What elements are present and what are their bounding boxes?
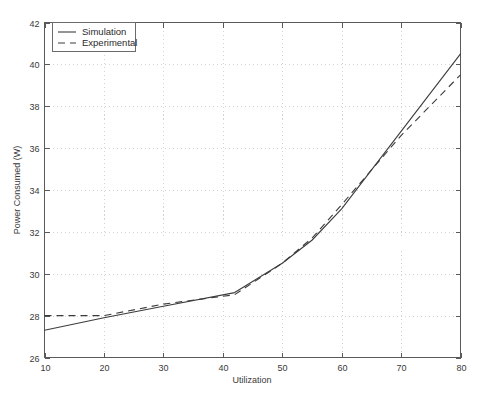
- legend: Simulation Experimental: [53, 23, 138, 52]
- figure-canvas: 262830323436384042 1020304050607080 Util…: [0, 0, 487, 400]
- y-tick-label: 26: [29, 354, 39, 364]
- series-experimental: [45, 75, 461, 316]
- plot-border: [45, 23, 461, 358]
- x-tick-label: 60: [337, 363, 347, 373]
- x-tick-label: 30: [158, 363, 168, 373]
- x-tick-label: 50: [277, 363, 287, 373]
- x-tick-label: 70: [396, 363, 406, 373]
- legend-label-experimental: Experimental: [82, 37, 137, 48]
- y-tick-label: 30: [29, 270, 39, 280]
- x-tick-labels: 1020304050607080: [40, 363, 466, 373]
- x-tick-label: 10: [40, 363, 50, 373]
- y-tick-labels: 262830323436384042: [29, 19, 39, 364]
- series-simulation: [45, 54, 461, 330]
- y-tick-label: 32: [29, 228, 39, 238]
- x-tick-label: 40: [218, 363, 228, 373]
- y-tick-label: 34: [29, 186, 39, 196]
- x-tick-label: 80: [456, 363, 466, 373]
- y-axis-title: Power Consumed (W): [12, 146, 22, 235]
- y-tick-label: 28: [29, 312, 39, 322]
- data-series: [45, 54, 461, 330]
- y-tick-label: 42: [29, 19, 39, 29]
- grid-lines: [45, 23, 461, 358]
- chart-plot: 262830323436384042 1020304050607080 Util…: [0, 0, 487, 400]
- x-tick-label: 20: [99, 363, 109, 373]
- axes-frame: [45, 23, 461, 358]
- legend-label-simulation: Simulation: [82, 26, 126, 37]
- y-tick-label: 40: [29, 60, 39, 70]
- x-axis-title: Utilization: [232, 375, 271, 385]
- y-tick-label: 38: [29, 102, 39, 112]
- y-tick-label: 36: [29, 144, 39, 154]
